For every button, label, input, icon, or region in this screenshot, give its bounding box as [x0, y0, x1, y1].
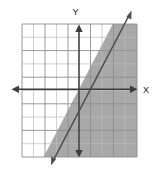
graph-figure: Y X [0, 0, 158, 169]
y-axis-label: Y [72, 7, 78, 17]
coordinate-plane-svg: Y X [0, 0, 158, 169]
x-axis-label: X [143, 85, 149, 95]
x-axis-left-arrowhead [12, 86, 20, 93]
